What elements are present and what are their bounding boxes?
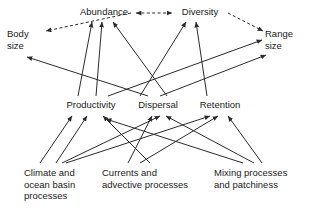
edge-climate-to-dispersal — [62, 116, 160, 163]
edge-mixing-to-retention — [228, 116, 262, 163]
edge-currents-to-dispersal — [128, 116, 152, 163]
edges-group — [27, 13, 266, 163]
node-abundance: Abundance — [76, 6, 132, 18]
diagram-canvas: Body sizeAbundanceDiversityRange sizePro… — [0, 0, 309, 216]
edge-dispersal-to-abundance — [113, 22, 167, 96]
node-dispersal: Dispersal — [133, 99, 183, 111]
edge-climate-to-retention — [66, 116, 210, 163]
edge-dispersal-to-diversity — [140, 22, 186, 96]
edge-mixing-to-productivity — [106, 119, 243, 163]
node-body_size: Body size — [7, 28, 47, 51]
node-mixing: Mixing processes and patchiness — [214, 167, 304, 190]
edge-climate-to-productivity — [40, 116, 72, 163]
edge-productivity-to-abundance — [96, 22, 102, 96]
edge-productivity-to-range_size — [108, 40, 262, 96]
node-climate: Climate and ocean basin processes — [24, 167, 94, 202]
edge-dispersal-to-body_size — [27, 57, 148, 96]
node-retention: Retention — [195, 99, 245, 111]
edge-productivity-to-abundance — [78, 22, 92, 96]
edge-retention-to-diversity — [196, 22, 207, 96]
edge-diversity-to-range_size — [228, 13, 263, 31]
node-diversity: Diversity — [176, 6, 224, 18]
node-productivity: Productivity — [62, 99, 120, 111]
node-currents: Currents and advective processes — [102, 167, 198, 190]
edge-dispersal-to-range_size — [160, 55, 266, 96]
edge-climate-to-productivity — [56, 116, 87, 163]
node-range_size: Range size — [265, 28, 307, 51]
